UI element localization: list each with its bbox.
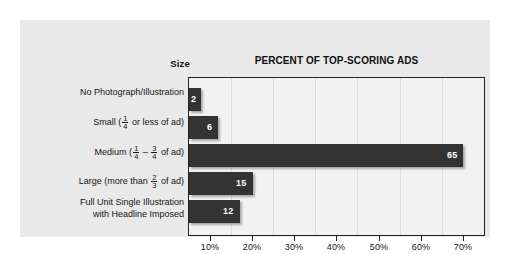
xtick-mark-20 (252, 236, 253, 241)
fraction-one-quarter: 14 (122, 115, 128, 131)
category-label-no-photograph: No Photograph/Illustration (34, 87, 184, 98)
category-label-full-unit-line1: Full Unit Single Illustration (80, 197, 184, 207)
category-label-list: No Photograph/Illustration Small (14 or … (34, 77, 184, 236)
bar-value-small: 6 (207, 116, 212, 139)
fraction-one-quarter: 14 (133, 145, 139, 161)
xtick-label-30: 30% (274, 242, 314, 252)
xtick-mark-10 (210, 236, 211, 241)
xtick-mark-40 (336, 236, 337, 241)
plot-inner: 2 6 65 15 (189, 78, 484, 235)
plot-area: 2 6 65 15 (188, 77, 485, 236)
category-label-small-prefix: Small ( (93, 117, 121, 127)
xtick-label-40: 40% (316, 242, 356, 252)
category-label-medium-prefix: Medium ( (95, 147, 133, 157)
xtick-mark-70 (463, 236, 464, 241)
size-column-header: Size (120, 58, 190, 69)
category-label-large-suffix: of ad) (158, 176, 184, 186)
bar-small (189, 116, 218, 139)
category-label-medium-dash: – (140, 147, 150, 157)
xtick-mark-30 (294, 236, 295, 241)
bar-medium (189, 144, 463, 167)
xtick-label-70: 70% (443, 242, 483, 252)
bar-value-no-photograph: 2 (191, 88, 196, 111)
category-label-full-unit: Full Unit Single Illustration (34, 197, 184, 208)
category-label-large-prefix: Large (more than (79, 176, 151, 186)
category-label-full-unit-line2: with Headline Imposed (93, 209, 184, 219)
category-label-small-suffix: or less of ad) (129, 117, 184, 127)
category-label-medium-suffix: of ad) (158, 147, 184, 157)
xtick-label-10: 10% (190, 242, 230, 252)
xtick-mark-60 (421, 236, 422, 241)
xtick-label-20: 20% (232, 242, 272, 252)
fraction-two-thirds: 23 (151, 174, 157, 190)
category-label-large: Large (more than 23 of ad) (34, 174, 184, 190)
bar-value-large: 15 (236, 172, 247, 195)
xtick-label-60: 60% (401, 242, 441, 252)
xtick-label-50: 50% (359, 242, 399, 252)
chart-title: PERCENT OF TOP-SCORING ADS (188, 55, 485, 66)
category-label-small: Small (14 or less of ad) (34, 115, 184, 131)
bar-value-medium: 65 (447, 144, 458, 167)
chart-panel: Size PERCENT OF TOP-SCORING ADS No Photo… (20, 20, 490, 237)
bar-value-full-unit: 12 (223, 200, 234, 223)
category-label-medium: Medium (14 – 34 of ad) (34, 145, 184, 161)
chart-figure: Size PERCENT OF TOP-SCORING ADS No Photo… (0, 0, 509, 254)
xtick-mark-50 (379, 236, 380, 241)
category-label-full-unit-line2-wrap: with Headline Imposed (34, 209, 184, 220)
fraction-three-quarters: 34 (151, 145, 157, 161)
